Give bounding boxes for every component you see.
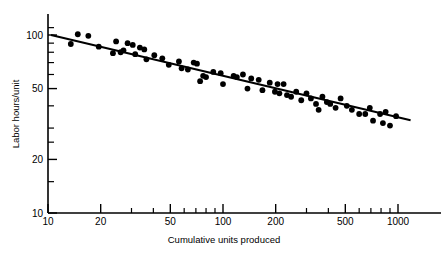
data-point	[245, 86, 251, 92]
data-point	[281, 81, 287, 87]
data-point	[197, 78, 203, 84]
data-point	[85, 33, 91, 39]
learning-curve-chart: 102050100 1020501002005001000 Labor hour…	[0, 0, 448, 254]
data-point	[387, 123, 393, 129]
data-point	[75, 31, 81, 37]
chart-canvas: 102050100 1020501002005001000 Labor hour…	[0, 0, 448, 254]
trend-line	[51, 35, 411, 120]
x-tick-label: 20	[95, 216, 107, 227]
x-axis-title: Cumulative units produced	[168, 234, 280, 245]
data-point	[298, 97, 304, 103]
data-point	[370, 118, 376, 124]
x-tick-label: 100	[215, 216, 232, 227]
data-point	[110, 50, 116, 56]
data-point	[113, 39, 119, 45]
y-axis-major-ticks	[48, 35, 57, 213]
data-point	[220, 81, 226, 87]
x-tick-label: 50	[165, 216, 177, 227]
y-tick-label: 100	[26, 30, 43, 41]
data-point	[288, 94, 294, 100]
data-point	[141, 47, 147, 53]
data-point	[203, 74, 209, 80]
x-axis-major-ticks	[48, 204, 398, 213]
y-axis-tick-labels: 102050100	[26, 30, 43, 219]
data-point	[260, 87, 266, 93]
data-point	[248, 76, 254, 82]
y-axis-minor-ticks	[48, 28, 54, 182]
y-tick-label: 50	[32, 83, 44, 94]
data-point	[151, 52, 157, 58]
data-point	[338, 96, 344, 102]
x-axis-tick-labels: 1020501002005001000	[42, 216, 409, 227]
x-tick-label: 1000	[387, 216, 410, 227]
data-point	[240, 72, 246, 78]
data-point	[130, 42, 136, 48]
data-point	[276, 90, 282, 96]
x-tick-label: 200	[267, 216, 284, 227]
data-point	[356, 111, 362, 117]
data-point	[313, 101, 319, 107]
y-tick-label: 20	[32, 154, 44, 165]
data-point	[362, 111, 368, 117]
x-tick-label: 10	[42, 216, 54, 227]
data-point	[125, 40, 131, 46]
scatter-points	[68, 31, 399, 128]
data-point	[333, 105, 339, 111]
data-point	[267, 80, 273, 86]
data-point	[380, 120, 386, 126]
data-point	[275, 81, 281, 87]
data-point	[194, 61, 200, 67]
x-tick-label: 500	[337, 216, 354, 227]
data-point	[256, 77, 262, 83]
y-axis-title: Labor hours/unit	[10, 79, 21, 148]
data-point	[176, 59, 182, 65]
data-point	[68, 41, 74, 47]
data-point	[316, 107, 322, 113]
